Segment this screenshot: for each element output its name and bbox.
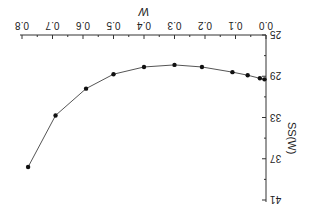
y-tick-label: 33 bbox=[270, 112, 282, 123]
x-tick-label: 0.5 bbox=[106, 20, 120, 31]
data-point bbox=[262, 77, 266, 81]
x-tick-label: 0.7 bbox=[45, 20, 59, 31]
x-tick-label: 0.4 bbox=[137, 20, 151, 31]
data-point bbox=[230, 70, 234, 74]
data-point bbox=[111, 72, 115, 76]
x-tick-label: 0.1 bbox=[228, 20, 242, 31]
x-axis-label: W bbox=[137, 6, 149, 18]
data-point bbox=[26, 165, 30, 169]
chart-container: 0.00.10.20.30.40.50.60.70.82529333741 W … bbox=[0, 0, 331, 220]
x-tick-label: 0.3 bbox=[167, 20, 181, 31]
x-tick-label: 0.8 bbox=[15, 20, 29, 31]
plot-area bbox=[26, 63, 267, 169]
data-point bbox=[172, 63, 176, 67]
series-line bbox=[28, 65, 264, 167]
data-point bbox=[246, 73, 250, 77]
data-point bbox=[53, 113, 57, 117]
y-axis-label: SS(W) bbox=[286, 122, 298, 154]
y-tick-label: 29 bbox=[270, 70, 282, 81]
data-point bbox=[142, 65, 146, 69]
data-point bbox=[84, 86, 88, 90]
y-tick-label: 37 bbox=[270, 153, 282, 164]
x-tick-label: 0.2 bbox=[198, 20, 212, 31]
line-chart: 0.00.10.20.30.40.50.60.70.82529333741 W … bbox=[0, 0, 331, 220]
data-point bbox=[258, 76, 262, 80]
y-tick-label: 41 bbox=[270, 194, 282, 205]
x-tick-label: 0.6 bbox=[76, 20, 90, 31]
data-point bbox=[200, 65, 204, 69]
axes: 0.00.10.20.30.40.50.60.70.82529333741 bbox=[15, 20, 282, 205]
y-tick-label: 25 bbox=[270, 29, 282, 40]
